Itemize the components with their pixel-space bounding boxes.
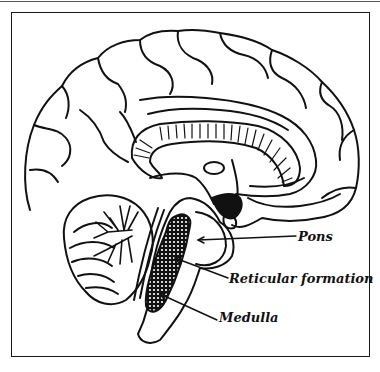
label-reticular-formation: Reticular formation: [229, 271, 373, 286]
label-medulla: Medulla: [219, 310, 279, 325]
cerebellum: [64, 195, 153, 304]
brain-illustration: [0, 0, 380, 372]
label-pons: Pons: [298, 229, 333, 244]
pons-leader: [198, 236, 296, 240]
reticular-leader: [175, 258, 228, 278]
thalamus: [204, 162, 224, 174]
